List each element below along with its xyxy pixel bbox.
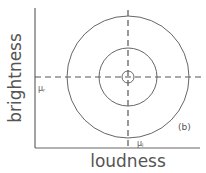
diagram-canvas: brightness loudness μr μl (b) xyxy=(0,0,206,173)
panel-label: (b) xyxy=(178,122,191,132)
y-axis-label: brightness xyxy=(5,33,25,123)
x-axis-label: loudness xyxy=(90,151,166,171)
y-mean-label: μr xyxy=(38,84,46,93)
x-mean-label: μl xyxy=(137,139,143,148)
